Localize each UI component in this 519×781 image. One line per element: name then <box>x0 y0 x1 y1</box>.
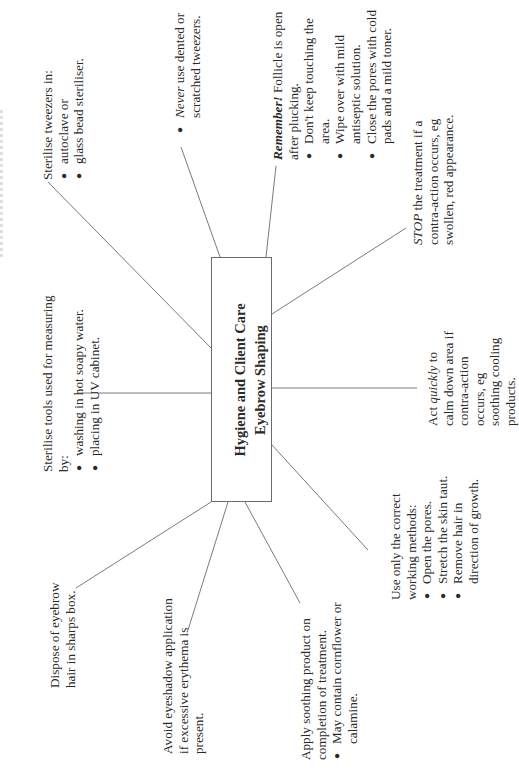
bullet-icon: ● <box>419 593 435 599</box>
emphasis-quickly: quickly <box>425 366 440 404</box>
emphasis-remember: Remember! <box>270 96 285 160</box>
bullet-icon: ● <box>172 127 188 133</box>
node-apply-soothing: Apply soothing product on completion of … <box>298 602 360 760</box>
connector-remember <box>266 166 276 257</box>
bullet-icon: ● <box>301 153 317 159</box>
bullet-icon: ● <box>435 593 451 599</box>
bullet-item: ●glass bead steriliser. <box>71 58 87 180</box>
node-never: ●Never use dented orscratched tweezers. <box>172 13 203 134</box>
bullet-item: ●Wipe over with mildantiseptic solution. <box>332 10 363 160</box>
bullet-item: ●May contain cornflower orcalamine. <box>329 602 360 760</box>
emphasis-never: Never <box>172 87 187 119</box>
emphasis-stop: STOP <box>410 214 425 245</box>
bullet-icon: ● <box>364 153 380 159</box>
node-sterilise-tweezers: Sterilise tweezers in: ●autoclave or ●gl… <box>40 58 87 180</box>
node-act-quickly: Act quickly to calm down area if contra-… <box>425 331 519 426</box>
node-sterilise-tools: Sterilise tools used for measuring by: ●… <box>40 295 102 472</box>
node-stop: STOP the treatment if a contra-action oc… <box>410 115 457 245</box>
bullet-icon: ● <box>450 593 466 599</box>
bullet-icon: ● <box>87 465 103 471</box>
title-line-1: Hygiene and Client Care <box>230 290 250 470</box>
bullet-item: ●placing in UV cabinet. <box>87 295 103 472</box>
bullet-item: ●washing in hot soapy water. <box>71 295 87 472</box>
connector-never <box>181 147 220 257</box>
node-remember: Remember! Follicle is open after pluckin… <box>270 10 395 160</box>
bullet-item: ●Open the pores. <box>419 476 435 600</box>
node-avoid-eyeshadow: Avoid eyeshadow application if excessive… <box>160 598 207 754</box>
node-dispose: Dispose of eyebrow hair in sharps box. <box>47 583 78 688</box>
node-heading: Sterilise tweezers in: <box>40 58 56 180</box>
connector-apply-soothing <box>245 502 300 603</box>
bullet-item: ●Stretch the skin taut. <box>435 476 451 600</box>
bullet-item: ●autoclave or <box>56 58 72 180</box>
bullet-icon: ● <box>71 173 87 179</box>
bullet-item: ●Never use dented orscratched tweezers. <box>172 13 203 134</box>
node-use-only: Use only the correct working methods: ●O… <box>388 476 482 600</box>
bullet-icon: ● <box>329 753 345 759</box>
bullet-icon: ● <box>56 173 72 179</box>
connector-stop <box>272 228 406 314</box>
bullet-icon: ● <box>332 153 348 159</box>
connector-use-only <box>272 445 368 550</box>
bullet-item: ●Don't keep touching thearea. <box>301 10 332 160</box>
central-topic-title: Hygiene and Client Care Eyebrow Shaping <box>230 290 270 470</box>
title-line-2: Eyebrow Shaping <box>250 290 270 470</box>
bullet-item: ●Remove hair indirection of growth. <box>450 476 481 600</box>
connector-dispose <box>76 502 211 588</box>
bullet-icon: ● <box>71 465 87 471</box>
cut-off-caption <box>0 110 3 260</box>
bullet-item: ●Close the pores with coldpads and a mil… <box>364 10 395 160</box>
